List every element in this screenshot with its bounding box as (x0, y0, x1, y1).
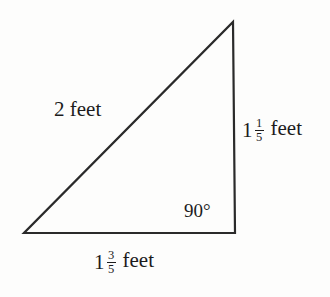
vertical-leg-fraction: 1 5 (255, 117, 264, 144)
right-angle-label-text: 90° (184, 200, 211, 221)
vertical-leg-numerator: 1 (255, 117, 263, 130)
hypotenuse-label: 2 feet (54, 99, 101, 120)
horizontal-leg-whole-part: 1 (94, 252, 105, 273)
right-angle-label: 90° (184, 201, 211, 220)
horizontal-leg-fraction: 3 5 (107, 249, 116, 276)
horizontal-leg-numerator: 3 (107, 249, 115, 262)
triangle-drawing (0, 0, 330, 297)
triangle-figure: 2 feet 1 1 5 feet 1 3 5 feet 90° (0, 0, 330, 297)
vertical-leg-unit: feet (271, 116, 302, 140)
horizontal-leg-mixed-number: 1 3 5 (94, 249, 116, 276)
horizontal-leg-label: 1 3 5 feet (94, 249, 154, 276)
horizontal-leg-unit: feet (123, 248, 154, 272)
vertical-leg-denominator: 5 (255, 131, 263, 144)
vertical-leg-mixed-number: 1 1 5 (242, 117, 264, 144)
vertical-leg-label: 1 1 5 feet (242, 117, 302, 144)
hypotenuse-label-text: 2 feet (54, 97, 101, 121)
horizontal-leg-denominator: 5 (107, 263, 115, 276)
vertical-leg-whole-part: 1 (242, 120, 253, 141)
